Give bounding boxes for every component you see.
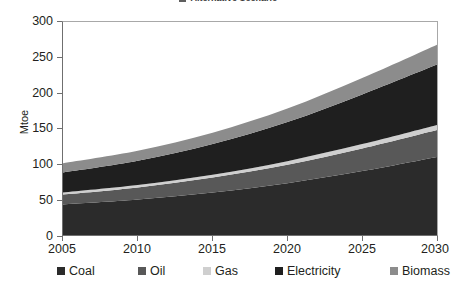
x-tick-label: 2010 <box>110 243 164 256</box>
title-swatch-icon <box>179 0 186 2</box>
x-tick-mark <box>287 236 288 241</box>
y-tick-label: 100 <box>0 158 53 171</box>
y-tick-label: 0 <box>0 230 53 243</box>
legend-label: Electricity <box>287 265 340 278</box>
x-tick-mark <box>212 236 213 241</box>
legend-swatch-icon <box>138 267 146 275</box>
y-axis-ticks: 300 250 200 150 100 50 0 <box>0 0 62 283</box>
x-tick-mark <box>62 236 63 241</box>
legend-label: Coal <box>69 265 95 278</box>
legend-item-electricity[interactable]: Electricity <box>275 265 340 278</box>
y-tick-label: 250 <box>0 51 53 64</box>
legend-swatch-icon <box>203 267 211 275</box>
legend-item-biomass[interactable]: Biomass <box>390 265 450 278</box>
x-tick-label: 2005 <box>35 243 89 256</box>
x-tick-mark <box>137 236 138 241</box>
y-tick-label: 150 <box>0 122 53 135</box>
y-tick-label: 300 <box>0 15 53 28</box>
x-tick-mark <box>437 236 438 241</box>
chart-legend: Coal Oil Gas Electricity Biomass <box>0 261 457 281</box>
chart-title: Alternative Scenario <box>0 0 457 3</box>
chart-title-strip: Alternative Scenario <box>0 0 457 9</box>
x-tick-mark <box>362 236 363 241</box>
legend-item-coal[interactable]: Coal <box>57 265 95 278</box>
stacked-area-svg <box>63 22 437 235</box>
legend-label: Oil <box>150 265 165 278</box>
x-tick-label: 2030 <box>408 243 457 256</box>
chart-title-text: Alternative Scenario <box>190 0 277 3</box>
x-tick-label: 2015 <box>185 243 239 256</box>
legend-item-oil[interactable]: Oil <box>138 265 165 278</box>
legend-label: Gas <box>215 265 238 278</box>
legend-item-gas[interactable]: Gas <box>203 265 238 278</box>
legend-label: Biomass <box>402 265 450 278</box>
plot-area <box>62 21 438 236</box>
x-tick-label: 2020 <box>260 243 314 256</box>
legend-swatch-icon <box>275 267 283 275</box>
legend-swatch-icon <box>57 267 65 275</box>
legend-swatch-icon <box>390 267 398 275</box>
y-tick-label: 50 <box>0 194 53 207</box>
chart-container: Alternative Scenario Mtoe 300 250 200 15… <box>0 0 457 283</box>
y-tick-label: 200 <box>0 87 53 100</box>
x-tick-label: 2025 <box>335 243 389 256</box>
